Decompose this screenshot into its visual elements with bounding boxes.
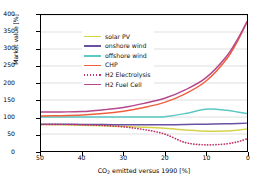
legend-swatch-icon bbox=[84, 42, 101, 50]
legend-swatch-icon bbox=[84, 62, 101, 70]
market-value-chart-figure: Market value [%] 05010015020025030035040… bbox=[0, 0, 260, 180]
y-tick-label: 50 bbox=[0, 131, 15, 137]
x-axis-label: CO2 emitted versus 1990 [%] bbox=[40, 167, 248, 174]
plot-area: solar PVonshore windoffshore windCHPH2 E… bbox=[40, 14, 248, 152]
x-tick-label: 30 bbox=[111, 155, 135, 161]
legend-label: onshore wind bbox=[105, 43, 146, 49]
legend-label: H2 Electrolysis bbox=[105, 72, 151, 78]
legend-item-chp[interactable]: CHP bbox=[84, 61, 151, 71]
legend: solar PVonshore windoffshore windCHPH2 E… bbox=[82, 30, 154, 92]
x-tick-label: 10 bbox=[194, 155, 218, 161]
legend-item-offshore-wind[interactable]: offshore wind bbox=[84, 51, 151, 61]
y-tick-label: 0 bbox=[0, 149, 15, 155]
legend-label: offshore wind bbox=[105, 53, 147, 59]
x-tick-label: 40 bbox=[70, 155, 94, 161]
y-tick-label: 200 bbox=[0, 80, 15, 86]
x-tick-label: 0 bbox=[236, 155, 260, 161]
legend-swatch-icon bbox=[84, 81, 101, 89]
y-tick-label: 250 bbox=[0, 62, 15, 68]
y-tick-label: 300 bbox=[0, 45, 15, 51]
x-tick-label: 20 bbox=[153, 155, 177, 161]
legend-swatch-icon bbox=[84, 33, 101, 41]
legend-label: H2 Fuel Cell bbox=[105, 82, 142, 88]
legend-item-onshore-wind[interactable]: onshore wind bbox=[84, 42, 151, 52]
legend-item-solar-pv[interactable]: solar PV bbox=[84, 32, 151, 42]
x-axis-label-subscript: 2 bbox=[107, 170, 110, 175]
legend-swatch-icon bbox=[84, 52, 101, 60]
legend-label: solar PV bbox=[105, 34, 130, 40]
x-tick-label: 50 bbox=[28, 155, 52, 161]
legend-swatch-icon bbox=[84, 71, 101, 79]
legend-item-h2-fuel-cell[interactable]: H2 Fuel Cell bbox=[84, 80, 151, 90]
legend-item-h2-electrolysis[interactable]: H2 Electrolysis bbox=[84, 70, 151, 80]
y-tick-label: 350 bbox=[0, 28, 15, 34]
y-tick-label: 150 bbox=[0, 97, 15, 103]
y-tick-label: 100 bbox=[0, 114, 15, 120]
legend-label: CHP bbox=[105, 62, 118, 68]
y-tick-label: 400 bbox=[0, 11, 15, 17]
